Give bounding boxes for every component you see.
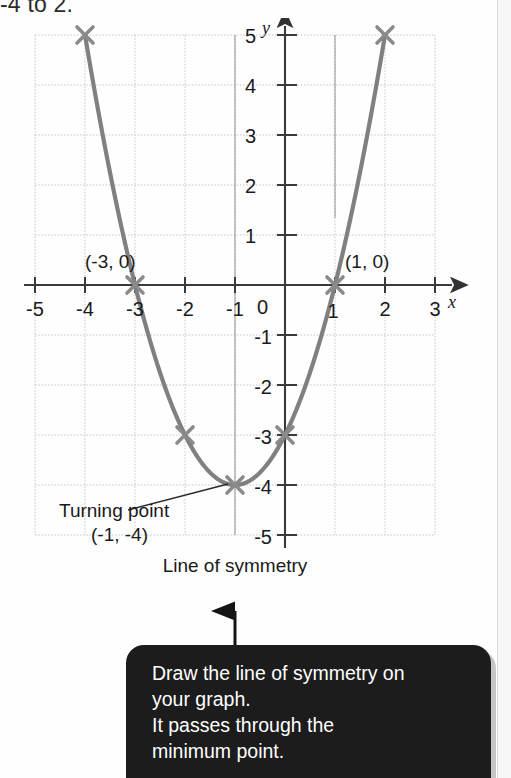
callout-line-3: It passes through the <box>152 713 491 739</box>
x-tick-label-neg4: -4 <box>76 298 94 320</box>
x-tick-label-neg2: -2 <box>176 298 194 320</box>
root-left-label: (-3, 0) <box>85 251 136 272</box>
page-edge-rule <box>497 0 498 778</box>
x-tick-label-neg3: -3 <box>126 298 144 320</box>
y-tick-label-neg2: -2 <box>254 376 272 398</box>
page-canvas: -4 to 2. <box>0 0 511 778</box>
y-tick-label-2: 1 <box>245 225 256 247</box>
x-tick-label-2: 2 <box>379 298 390 320</box>
instruction-callout: Draw the line of symmetry on your graph.… <box>126 645 491 778</box>
y-axis-label: y <box>260 18 270 38</box>
root-right-label: (1, 0) <box>345 251 389 272</box>
y-tick-label-neg4: -4 <box>254 476 272 498</box>
x-tick-label-neg1: -1 <box>226 298 244 320</box>
y-tick-label-neg3: -3 <box>254 426 272 448</box>
x-axis-label: x <box>447 292 456 312</box>
top-instruction-text: -4 to 2. <box>0 0 73 18</box>
page-margin <box>498 0 511 778</box>
x-tick-label-neg5: -5 <box>26 298 44 320</box>
y-tick-label-3: 3 <box>245 125 256 147</box>
turning-point-label-line1: Turning point <box>59 500 170 521</box>
y-tick-label-5: 5 <box>245 25 256 47</box>
y-tick-label-2b: 2 <box>245 175 256 197</box>
symmetry-label-line1: Line of symmetry <box>163 555 308 576</box>
x-tick-label-1: 1 <box>327 300 338 322</box>
turning-point-label-line2: (-1, -4) <box>91 524 148 545</box>
x-tick-label-3: 3 <box>429 298 440 320</box>
origin-label: 0 <box>257 296 268 318</box>
callout-line-1: Draw the line of symmetry on <box>152 661 491 687</box>
callout-line-2: your graph. <box>152 687 491 713</box>
y-tick-label-4: 4 <box>245 75 256 97</box>
callout-line-4: minimum point. <box>152 739 491 765</box>
coordinate-graph: y x 5 4 3 1 2 0 -1 -2 -3 -4 -5 -5 -4 -3 … <box>0 18 470 578</box>
y-tick-label-neg1: -1 <box>254 326 272 348</box>
y-tick-label-neg5: -5 <box>254 526 272 548</box>
